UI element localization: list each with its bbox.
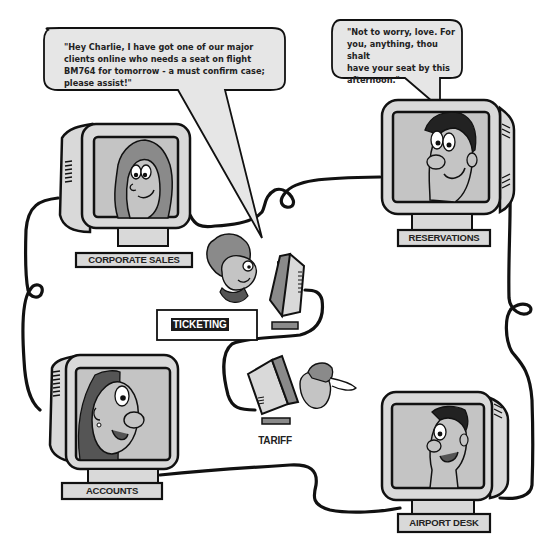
- tariff-station: [248, 356, 356, 424]
- speech-bubble-text-corporate-sales: "Hey Charlie, I have got one of our majo…: [64, 41, 279, 89]
- label-tariff: TARIFF: [250, 435, 300, 446]
- bubble-line: you, anything, thou shalt: [347, 38, 462, 62]
- bubble-line: have your seat by this: [347, 62, 462, 74]
- monitor-airport-desk: [382, 392, 508, 532]
- bubble-line: afternoon.": [347, 74, 462, 86]
- monitor-corporate-sales: [60, 124, 192, 267]
- label-ticketing: TICKETING: [171, 318, 229, 331]
- bubble-line: clients online who needs a seat on fligh…: [64, 53, 279, 65]
- label-reservations: RESERVATIONS: [398, 232, 490, 243]
- label-corporate-sales: CORPORATE SALES: [76, 254, 192, 265]
- label-accounts: ACCOUNTS: [62, 485, 162, 496]
- cable-accounts-to-airport: [160, 465, 400, 512]
- label-airport-desk: AIRPORT DESK: [398, 517, 490, 528]
- speech-bubble-text-reservations: "Not to worry, love. For you, anything, …: [347, 26, 462, 86]
- bubble-line: BM764 for tomorrow - a must confirm case…: [64, 65, 279, 77]
- cable-corporate-to-reservations: [190, 177, 380, 227]
- monitor-accounts: [50, 355, 178, 499]
- bubble-line: "Not to worry, love. For: [347, 26, 462, 38]
- bubble-line: "Hey Charlie, I have got one of our majo…: [64, 41, 279, 53]
- bubble-line: please assist!": [64, 77, 279, 89]
- monitor-reservations: [382, 100, 514, 246]
